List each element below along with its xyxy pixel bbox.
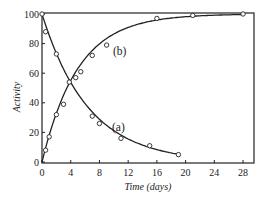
- data-point-marker: [74, 75, 78, 79]
- data-point-marker: [241, 12, 245, 16]
- x-tick-label: 0: [40, 167, 45, 178]
- data-point-marker: [148, 144, 152, 148]
- y-tick-label: 0: [34, 157, 39, 168]
- data-point-marker: [176, 152, 180, 156]
- chart-svg: 0481216202428 020406080100 (b) (a) Time …: [0, 0, 266, 200]
- series-b-label: (b): [113, 45, 127, 58]
- data-point-marker: [155, 16, 159, 20]
- data-point-marker: [43, 148, 47, 152]
- x-tick-label: 8: [97, 167, 102, 178]
- data-point-marker: [97, 121, 101, 125]
- data-point-marker: [61, 102, 65, 106]
- markers-b: [43, 12, 245, 153]
- curve-a: [42, 14, 178, 154]
- data-point-marker: [104, 43, 108, 47]
- data-point-marker: [79, 70, 83, 74]
- data-point-marker: [90, 114, 94, 118]
- data-point-marker: [67, 80, 71, 84]
- y-tick-label: 80: [29, 38, 39, 49]
- curve-b: [42, 15, 243, 163]
- y-axis-title: Activity: [11, 81, 22, 113]
- data-point-marker: [40, 12, 44, 16]
- x-axis-title: Time (days): [125, 181, 173, 193]
- data-point-marker: [43, 30, 47, 34]
- x-tick-label: 24: [209, 167, 219, 178]
- x-tick-label: 16: [152, 167, 162, 178]
- y-tick-label: 40: [29, 97, 39, 108]
- activity-chart: 0481216202428 020406080100 (b) (a) Time …: [0, 0, 266, 200]
- y-tick-label: 60: [29, 68, 39, 79]
- data-point-marker: [54, 112, 58, 116]
- series-a-label: (a): [112, 121, 125, 134]
- data-point-marker: [119, 136, 123, 140]
- x-tick-label: 28: [238, 167, 248, 178]
- x-tick-label: 20: [181, 167, 191, 178]
- data-point-marker: [191, 13, 195, 17]
- markers-a: [40, 12, 181, 157]
- y-tick-label: 100: [24, 9, 39, 20]
- y-tick-label: 20: [29, 127, 39, 138]
- x-tick-label: 4: [68, 167, 73, 178]
- data-point-marker: [47, 135, 51, 139]
- x-tick-label: 12: [123, 167, 133, 178]
- data-point-marker: [54, 52, 58, 56]
- data-point-marker: [90, 53, 94, 57]
